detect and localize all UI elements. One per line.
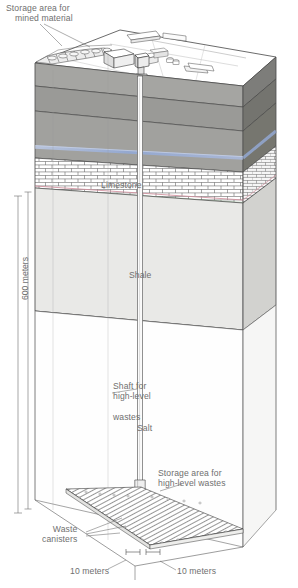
label-depth-600-meters: 600 meters [20, 257, 30, 300]
cross-section-illustration [0, 0, 298, 588]
depth-scale-600m [14, 192, 32, 513]
diagram-canvas: Storage area for mined material Limeston… [0, 0, 298, 588]
canister-spacing-dimensions [126, 549, 160, 555]
